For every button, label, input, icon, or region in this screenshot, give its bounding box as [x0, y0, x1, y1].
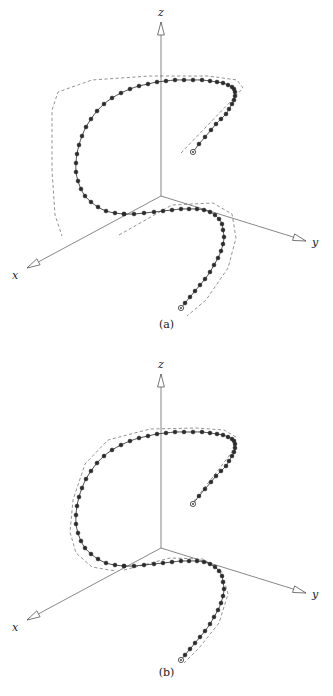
figure-container: z y x (a) z y x (b): [0, 0, 333, 696]
panel-caption-b: (b): [0, 666, 333, 679]
panel-caption-a: (a): [0, 318, 333, 331]
axis-label-x: x: [12, 270, 18, 281]
axis-label-y: y: [312, 237, 318, 248]
panel-a-plot: [0, 0, 333, 348]
panel-a: z y x (a): [0, 0, 333, 348]
axis-label-z: z: [158, 7, 164, 18]
panel-b: z y x (b): [0, 348, 333, 696]
axis-label-x: x: [12, 622, 18, 633]
axis-label-y: y: [312, 589, 318, 600]
panel-b-plot: [0, 348, 333, 696]
axis-label-z: z: [158, 359, 164, 370]
